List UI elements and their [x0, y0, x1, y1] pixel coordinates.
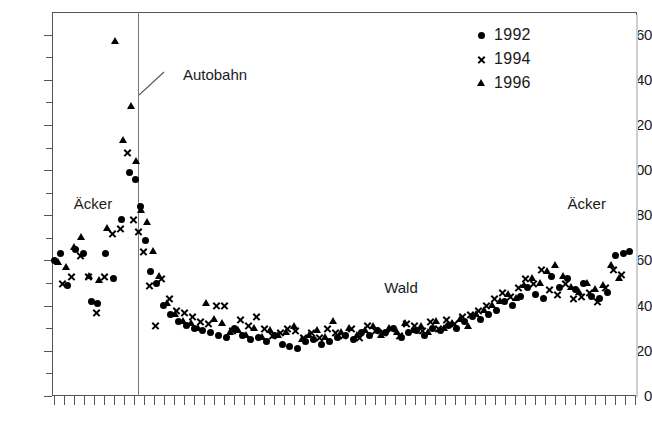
x-tick [174, 396, 175, 405]
x-tick [405, 396, 406, 405]
data-point-1996 [575, 288, 583, 295]
y-tick-major [44, 125, 52, 126]
data-point-1996 [583, 279, 591, 286]
data-point-1996 [520, 281, 528, 288]
x-tick [625, 396, 626, 405]
data-point-1996 [305, 331, 313, 338]
data-point-1992 [509, 302, 516, 309]
y-tick-major [44, 351, 52, 352]
data-point-1996 [155, 272, 163, 279]
legend-marker-circle-icon [472, 24, 490, 46]
legend-marker-triangle-icon [472, 72, 490, 94]
data-point-1996 [504, 290, 512, 297]
data-point-1996 [456, 315, 464, 322]
legend-marker-triangle [477, 79, 485, 86]
data-point-1996 [62, 263, 70, 270]
x-tick [535, 396, 536, 405]
x-tick [565, 396, 566, 405]
data-point-1996 [202, 299, 210, 306]
x-tick [515, 396, 516, 405]
data-point-1996 [607, 261, 615, 268]
y-tick-major [44, 396, 52, 397]
data-point-1994 [145, 281, 154, 290]
data-point-1994 [116, 224, 125, 233]
data-point-1996 [103, 224, 111, 231]
data-point-1994 [92, 308, 101, 317]
data-point-1994 [67, 272, 76, 281]
y-tick-major [44, 215, 52, 216]
data-point-1996 [54, 258, 62, 265]
data-point-1996 [377, 331, 385, 338]
data-point-1996 [488, 301, 496, 308]
annotation-autobahn: Autobahn [183, 67, 247, 83]
x-tick [54, 396, 55, 405]
data-point-1994 [129, 215, 138, 224]
x-tick [234, 396, 235, 405]
data-point-1996 [194, 324, 202, 331]
legend-label-1994: 1994 [494, 49, 531, 69]
data-point-1996 [417, 322, 425, 329]
data-point-1996 [472, 310, 480, 317]
data-point-1996 [361, 326, 369, 333]
data-point-1996 [615, 274, 623, 281]
data-point-1992 [147, 268, 154, 275]
x-tick [264, 396, 265, 405]
data-point-1996 [424, 328, 432, 335]
x-tick [505, 396, 506, 405]
data-point-1996 [70, 243, 78, 250]
data-point-1996 [274, 331, 282, 338]
data-point-1994 [553, 290, 562, 299]
data-point-1996 [385, 324, 393, 331]
data-point-1992 [279, 341, 286, 348]
annotation-wald: Wald [384, 280, 418, 296]
data-point-1996 [226, 328, 234, 335]
x-tick [485, 396, 486, 405]
legend-marker-cross-icon [472, 48, 490, 70]
x-tick [324, 396, 325, 405]
x-tick [435, 396, 436, 405]
x-tick [134, 396, 135, 405]
y-tick-major [44, 80, 52, 81]
x-tick [475, 396, 476, 405]
data-point-1996 [512, 294, 520, 301]
data-point-1996 [77, 233, 85, 240]
x-tick [164, 396, 165, 405]
x-tick [304, 396, 305, 405]
data-point-1992 [94, 300, 101, 307]
y-tick-major [44, 306, 52, 307]
x-tick [495, 396, 496, 405]
data-point-1996 [599, 281, 607, 288]
x-tick [144, 396, 145, 405]
data-point-1994 [134, 227, 143, 236]
x-tick [585, 396, 586, 405]
data-point-1992 [142, 237, 149, 244]
data-point-1996 [111, 37, 119, 44]
data-point-1996 [337, 328, 345, 335]
x-tick [184, 396, 185, 405]
data-point-1996 [143, 218, 151, 225]
data-point-1996 [369, 322, 377, 329]
x-tick [64, 396, 65, 405]
x-tick [274, 396, 275, 405]
data-point-1996 [480, 306, 488, 313]
data-point-1996 [95, 276, 103, 283]
data-point-1996 [353, 331, 361, 338]
x-tick [615, 396, 616, 405]
data-point-1994 [593, 297, 602, 306]
x-tick [345, 396, 346, 405]
data-point-1996 [401, 319, 409, 326]
data-point-1996 [187, 319, 195, 326]
x-tick [114, 396, 115, 405]
annotation-acker-left: Äcker [74, 196, 112, 212]
data-point-1996 [149, 247, 157, 254]
data-point-1996 [298, 335, 306, 342]
data-point-1996 [432, 317, 440, 324]
data-point-1996 [242, 331, 250, 338]
data-point-1996 [567, 283, 575, 290]
x-tick [365, 396, 366, 405]
data-point-1996 [440, 324, 448, 331]
data-point-1996 [329, 317, 337, 324]
x-tick [154, 396, 155, 405]
data-point-1996 [345, 324, 353, 331]
legend-label-1992: 1992 [494, 25, 531, 45]
